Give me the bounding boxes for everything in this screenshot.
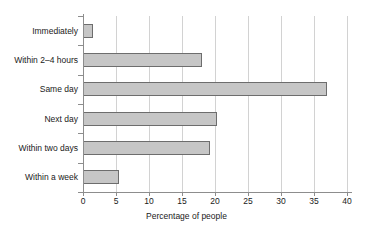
x-tick-label-5: 5 [101,196,131,207]
y-tick [78,163,83,164]
x-axis-title: Percentage of people [0,211,373,221]
y-tick [78,104,83,105]
gridline-10 [149,16,150,192]
plot-area [83,16,347,192]
y-category-label: Within two days [2,143,78,153]
y-tick [78,16,83,17]
y-category-label: Within 2–4 hours [2,55,78,65]
y-axis-category-labels: ImmediatelyWithin 2–4 hoursSame dayNext … [0,0,78,232]
bar-row [83,112,347,126]
y-tick [78,75,83,76]
gridline-30 [281,16,282,192]
gridline-5 [116,16,117,192]
bar-row [83,82,347,96]
bar-row [83,24,347,38]
x-tick-label-20: 20 [200,196,230,207]
y-axis-line [83,14,84,192]
x-tick-label-10: 10 [134,196,164,207]
x-tick-label-35: 35 [299,196,329,207]
y-category-label: Immediately [2,26,78,36]
bar-row [83,170,347,184]
x-tick-label-25: 25 [233,196,263,207]
y-tick [78,133,83,134]
y-category-label: Same day [2,84,78,94]
bar [83,82,327,96]
x-tick-label-40: 40 [332,196,362,207]
y-tick [78,192,83,193]
bar [83,112,217,126]
x-tick-label-30: 30 [266,196,296,207]
gridline-35 [314,16,315,192]
bar-row [83,141,347,155]
gridline-15 [182,16,183,192]
y-category-label: Next day [2,114,78,124]
bar [83,170,119,184]
bar-row [83,53,347,67]
bar [83,141,210,155]
bar-chart: 0510152025303540 ImmediatelyWithin 2–4 h… [0,0,373,232]
bar [83,24,93,38]
gridline-25 [248,16,249,192]
y-tick [78,45,83,46]
x-tick-label-15: 15 [167,196,197,207]
gridline-40 [347,16,348,192]
y-category-label: Within a week [2,172,78,182]
gridline-20 [215,16,216,192]
bar [83,53,202,67]
